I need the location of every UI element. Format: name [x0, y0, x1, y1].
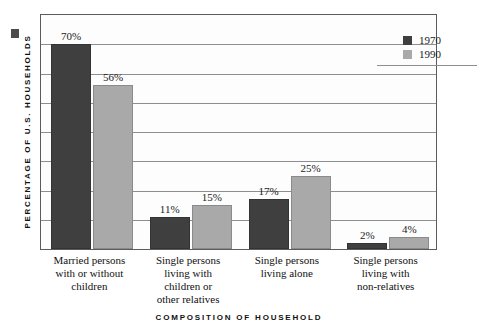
- bar-value-label: 56%: [90, 71, 136, 83]
- bar-1990-3: [291, 176, 331, 249]
- legend-swatch-icon: [403, 50, 412, 59]
- scan-artifact: [11, 29, 19, 38]
- bar-1970-2: [150, 217, 190, 249]
- bar-value-label: 15%: [189, 191, 235, 203]
- x-axis-title: COMPOSITION OF HOUSEHOLD: [40, 313, 438, 322]
- category-label-line: with or without: [40, 267, 139, 280]
- category-label-line: children: [40, 280, 139, 293]
- bar-value-label: 25%: [288, 162, 334, 174]
- bar-1970-3: [249, 199, 289, 249]
- bar-group: 17%25%: [239, 15, 338, 249]
- category-label-3: Single personsliving alone: [238, 254, 337, 280]
- legend-entry-1990: 1990: [377, 47, 477, 61]
- category-label-line: Single persons: [336, 254, 435, 267]
- legend-label: 1990: [419, 49, 441, 60]
- category-label-1: Married personswith or withoutchildren: [40, 254, 139, 293]
- legend-entry-1970: 1970: [377, 33, 477, 47]
- bar-1970-1: [51, 44, 91, 249]
- legend-swatch-icon: [403, 36, 412, 45]
- plot-area: 70%56%11%15%17%25%2%4% 19701990: [40, 14, 437, 250]
- bar-value-label: 17%: [246, 185, 292, 197]
- category-label-line: living with: [139, 267, 238, 280]
- legend-label: 1970: [419, 35, 441, 46]
- category-label-line: Single persons: [238, 254, 337, 267]
- chart-legend: 19701990: [377, 30, 477, 66]
- category-label-line: children or: [139, 280, 238, 293]
- category-label-line: living alone: [238, 267, 337, 280]
- bar-value-label: 2%: [344, 229, 390, 241]
- bar-1990-1: [93, 85, 133, 249]
- bar-group: 11%15%: [140, 15, 239, 249]
- bar-1990-4: [389, 237, 429, 249]
- category-label-line: Married persons: [40, 254, 139, 267]
- x-axis-category-labels: Married personswith or withoutchildrenSi…: [40, 254, 437, 310]
- bar-1970-4: [347, 243, 387, 249]
- bar-group: 70%56%: [41, 15, 140, 249]
- category-label-2: Single personsliving withchildren orothe…: [139, 254, 238, 306]
- bar-1990-2: [192, 205, 232, 249]
- bar-value-label: 11%: [147, 203, 193, 215]
- category-label-line: living with: [336, 267, 435, 280]
- category-label-line: non-relatives: [336, 280, 435, 293]
- y-axis-title: PERCENTAGE OF U.S. HOUSEHOLDS: [23, 7, 32, 257]
- bar-value-label: 70%: [48, 30, 94, 42]
- category-label-line: other relatives: [139, 293, 238, 306]
- category-label-4: Single personsliving withnon-relatives: [336, 254, 435, 293]
- bar-value-label: 4%: [386, 223, 432, 235]
- category-label-line: Single persons: [139, 254, 238, 267]
